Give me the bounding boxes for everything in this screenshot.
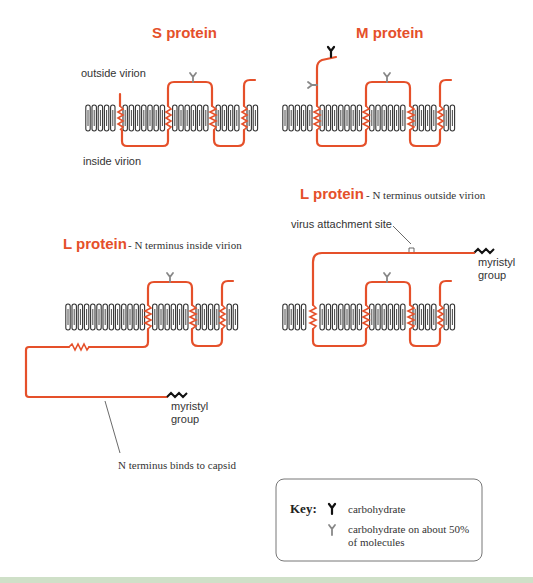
phospholipid xyxy=(109,304,113,330)
phospholipid xyxy=(154,105,158,131)
phospholipid xyxy=(283,105,287,131)
transmembrane-helix xyxy=(310,305,316,329)
transmembrane-helix xyxy=(220,305,225,329)
phospholipid xyxy=(228,105,232,131)
capsid-binding-label: N terminus binds to capsid xyxy=(118,459,236,471)
transmembrane-helix xyxy=(438,305,443,329)
phospholipid xyxy=(444,304,448,330)
phospholipid xyxy=(283,304,287,330)
l-protein-outside-title: L protein xyxy=(300,185,364,202)
phospholipid xyxy=(227,304,231,330)
phospholipid xyxy=(184,304,188,330)
transmembrane-helix xyxy=(210,106,216,130)
phospholipid xyxy=(111,105,115,131)
phospholipid xyxy=(357,105,361,131)
myristyl-group-icon xyxy=(474,249,494,253)
transmembrane-helix xyxy=(438,106,443,130)
transmembrane-helix xyxy=(363,305,369,329)
phospholipid xyxy=(173,105,177,131)
phospholipid xyxy=(171,304,175,330)
attachment-pointer-line xyxy=(393,226,411,244)
phospholipid xyxy=(235,105,239,131)
myristyl-label: myristyl xyxy=(171,400,208,412)
l-protein-inside-subtitle: - N terminus inside virion xyxy=(128,239,242,251)
inside-virion-label: inside virion xyxy=(83,155,141,167)
phospholipid xyxy=(370,304,374,330)
phospholipid xyxy=(153,304,157,330)
phospholipid xyxy=(444,105,448,131)
carbohydrate-icon xyxy=(328,47,334,57)
protein-chain xyxy=(26,281,233,397)
transmembrane-helix xyxy=(363,106,369,130)
key-legend: Key: carbohydrate carbohydrate on about … xyxy=(276,479,482,561)
phospholipid xyxy=(197,105,201,131)
phospholipid xyxy=(376,304,380,330)
phospholipid xyxy=(86,105,90,131)
carbohydrate-partial-icon xyxy=(384,73,390,82)
phospholipid xyxy=(91,304,95,330)
diagram-canvas: S protein outside virion inside virion M… xyxy=(0,0,533,583)
phospholipid xyxy=(419,304,423,330)
carbohydrate-partial-icon xyxy=(384,273,390,282)
key-item-label: carbohydrate xyxy=(348,503,406,515)
phospholipid xyxy=(351,105,355,131)
phospholipid xyxy=(165,304,169,330)
phospholipid xyxy=(98,105,102,131)
virus-attachment-site-label: virus attachment site xyxy=(291,218,392,230)
l-protein-outside-diagram: L protein - N terminus outside virion vi… xyxy=(283,185,515,346)
phospholipid xyxy=(295,304,299,330)
phospholipid xyxy=(345,105,349,131)
s-protein-diagram: S protein outside virion inside virion xyxy=(81,24,258,167)
phospholipid xyxy=(129,105,133,131)
phospholipid xyxy=(388,105,392,131)
transmembrane-helix xyxy=(166,106,171,130)
phospholipid xyxy=(425,105,429,131)
phospholipid xyxy=(289,304,293,330)
helix-segment xyxy=(69,344,89,350)
s-protein-title: S protein xyxy=(152,24,217,41)
carbohydrate-partial-icon xyxy=(190,73,196,82)
phospholipid xyxy=(401,105,405,131)
phospholipid xyxy=(208,304,212,330)
phospholipid xyxy=(202,304,206,330)
phospholipid xyxy=(382,105,386,131)
phospholipid xyxy=(370,105,374,131)
phospholipid xyxy=(320,304,324,330)
transmembrane-helix xyxy=(190,305,196,329)
phospholipid xyxy=(159,304,163,330)
phospholipid xyxy=(148,105,152,131)
transmembrane-helix xyxy=(118,106,123,130)
key-title: Key: xyxy=(290,501,317,516)
phospholipid xyxy=(394,105,398,131)
phospholipid xyxy=(103,304,107,330)
phospholipid xyxy=(222,105,226,131)
phospholipid xyxy=(97,304,101,330)
phospholipid xyxy=(450,105,454,131)
transmembrane-helix xyxy=(314,106,320,130)
phospholipid xyxy=(289,105,293,131)
phospholipid xyxy=(339,304,343,330)
transmembrane-helix xyxy=(242,106,247,130)
phospholipid xyxy=(450,304,454,330)
phospholipid xyxy=(376,105,380,131)
phospholipid xyxy=(204,105,208,131)
phospholipid xyxy=(66,304,70,330)
phospholipid xyxy=(72,304,76,330)
phospholipid xyxy=(84,304,88,330)
phospholipid xyxy=(301,304,305,330)
phospholipid xyxy=(135,105,139,131)
phospholipid xyxy=(191,105,195,131)
phospholipid xyxy=(382,304,386,330)
phospholipid xyxy=(185,105,189,131)
phospholipid xyxy=(357,304,361,330)
phospholipid xyxy=(345,304,349,330)
phospholipid xyxy=(301,105,305,131)
phospholipid xyxy=(295,105,299,131)
phospholipid xyxy=(339,105,343,131)
phospholipid xyxy=(253,105,257,131)
phospholipid xyxy=(122,304,126,330)
group-label: group xyxy=(171,413,199,425)
l-protein-inside-title: L protein xyxy=(63,235,127,252)
phospholipid xyxy=(388,304,392,330)
phospholipid xyxy=(115,304,119,330)
